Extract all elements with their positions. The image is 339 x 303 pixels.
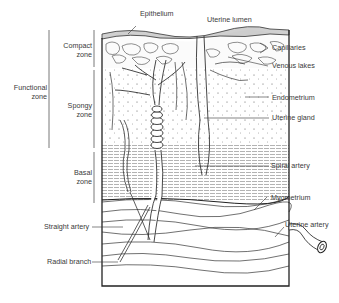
- label-spiral-artery: Spiral artery: [271, 162, 310, 171]
- label-spongy-zone-line2: zone: [76, 110, 92, 119]
- label-venous-lakes: Venous lakes: [272, 62, 315, 71]
- label-straight-artery: Straight artery: [44, 223, 89, 232]
- myometrium-fibers: [102, 198, 291, 273]
- label-epithelium: Epithelium: [140, 10, 174, 19]
- label-myometrium: Myometrium: [271, 194, 311, 203]
- label-basal-zone-line2: zone: [76, 177, 92, 186]
- label-compact-zone: Compact zone: [56, 42, 92, 59]
- label-uterine-gland: Uterine gland: [272, 114, 315, 123]
- label-capillaries: Capillaries: [272, 44, 306, 53]
- label-endometrium: Endometrium: [272, 94, 315, 103]
- label-basal-zone: Basal zone: [56, 169, 92, 186]
- label-uterine-artery: Uterine artery: [285, 221, 329, 230]
- label-compact-zone-line2: zone: [76, 50, 92, 59]
- label-uterine-lumen: Uterine lumen: [207, 16, 252, 25]
- label-spongy-zone: Spongy zone: [56, 102, 92, 119]
- compact-zone: [102, 30, 289, 68]
- label-functional-zone: Functional zone: [4, 84, 47, 101]
- basal-zone: [102, 144, 289, 200]
- label-functional-zone-line2: zone: [31, 92, 47, 101]
- label-radial-branch: Radial branch: [47, 258, 91, 267]
- spongy-zone: [102, 62, 289, 144]
